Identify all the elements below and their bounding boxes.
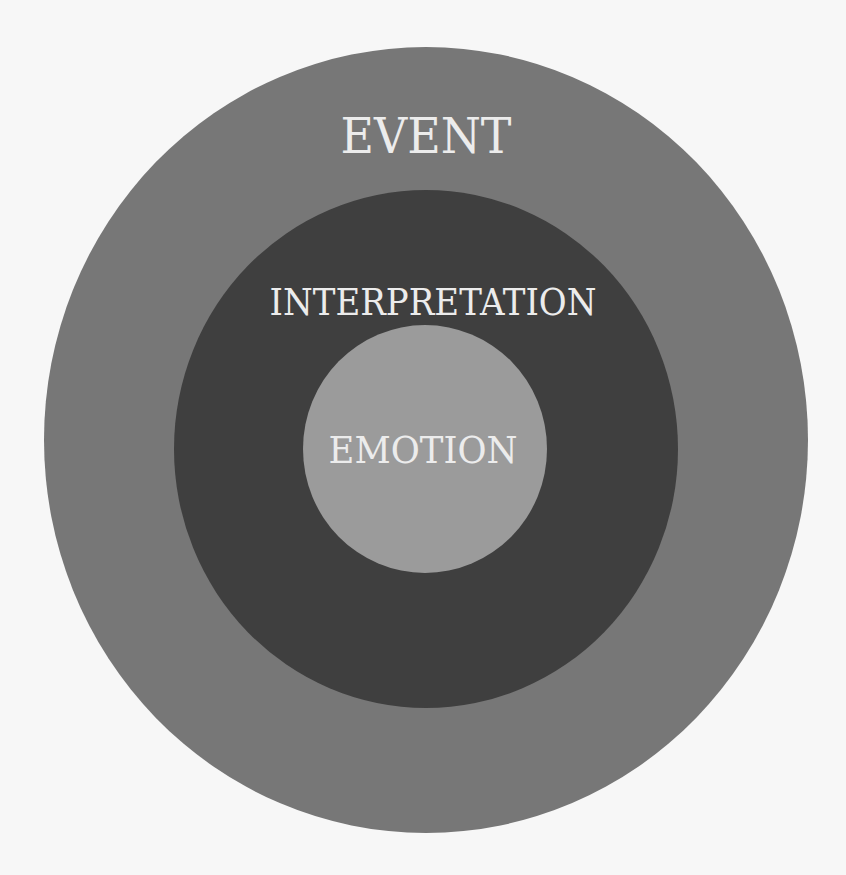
event-label: EVENT <box>341 108 512 164</box>
diagram-canvas: EVENT INTERPRETATION EMOTION <box>0 0 846 875</box>
interpretation-label: INTERPRETATION <box>270 281 597 324</box>
concentric-circles-diagram: EVENT INTERPRETATION EMOTION <box>0 0 846 875</box>
emotion-label: EMOTION <box>329 429 518 472</box>
